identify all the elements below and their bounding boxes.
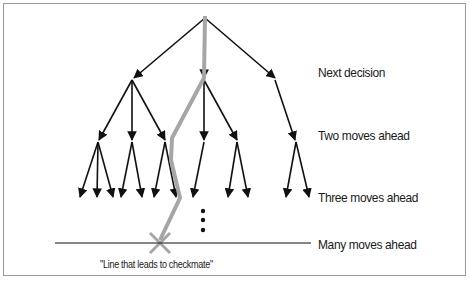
level-label-two-moves: Two moves ahead: [318, 128, 410, 143]
level-label-many-moves: Many moves ahead: [318, 237, 416, 252]
ellipsis-icon: [201, 209, 205, 232]
level-label-three-moves: Three moves ahead: [318, 190, 418, 205]
level-label-next-decision: Next decision: [318, 65, 385, 80]
tree-edges: [80, 18, 309, 197]
checkmate-caption: "Line that leads to checkmate": [100, 259, 213, 270]
